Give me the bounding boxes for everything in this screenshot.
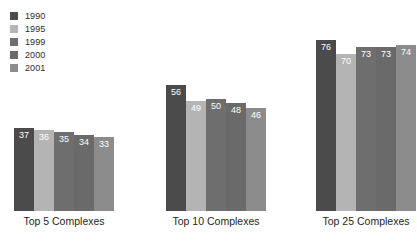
bar-value-label: 34 [74, 137, 94, 147]
bar-value-label: 70 [336, 56, 356, 66]
bar: 46 [246, 108, 266, 212]
category-label: Top 10 Complexes [173, 215, 260, 227]
bar: 37 [14, 128, 34, 211]
bar: 36 [34, 130, 54, 211]
bar-group: 3736353433Top 5 Complexes [14, 36, 114, 211]
bar: 73 [376, 47, 396, 211]
category-label: Top 5 Complexes [23, 215, 104, 227]
bar-chart: 19901995199920002001 3736353433Top 5 Com… [0, 0, 417, 247]
bar: 56 [166, 85, 186, 211]
bar: 35 [54, 132, 74, 211]
bar: 74 [396, 45, 416, 212]
bar-value-label: 37 [14, 130, 34, 140]
bar-value-label: 74 [396, 47, 416, 57]
category-label: Top 25 Complexes [323, 215, 410, 227]
bar: 33 [94, 137, 114, 211]
bar: 70 [336, 54, 356, 212]
bar-value-label: 73 [376, 49, 396, 59]
bar: 50 [206, 99, 226, 212]
bar-value-label: 49 [186, 103, 206, 113]
bar-value-label: 73 [356, 49, 376, 59]
bar: 76 [316, 40, 336, 211]
bar-value-label: 35 [54, 134, 74, 144]
bar-value-label: 50 [206, 101, 226, 111]
bar: 49 [186, 101, 206, 211]
bar: 48 [226, 103, 246, 211]
bar: 34 [74, 135, 94, 212]
bar-value-label: 56 [166, 87, 186, 97]
bar-value-label: 36 [34, 132, 54, 142]
bar-value-label: 76 [316, 42, 336, 52]
bar-value-label: 33 [94, 139, 114, 149]
bar-group: 5649504846Top 10 Complexes [166, 36, 266, 211]
plot-area: 3736353433Top 5 Complexes5649504846Top 1… [0, 0, 417, 247]
bar-value-label: 48 [226, 105, 246, 115]
bar: 73 [356, 47, 376, 211]
bar-value-label: 46 [246, 110, 266, 120]
bar-group: 7670737374Top 25 Complexes [316, 36, 416, 211]
